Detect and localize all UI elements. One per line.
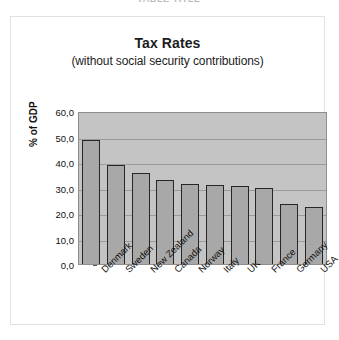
x-axis-tick-label: UK — [245, 267, 253, 275]
x-axis-tick-label: Germany — [294, 267, 302, 275]
cut-off-header-strip: TABLE TITLE — [0, 0, 338, 12]
x-axis-tick-label: France — [269, 267, 277, 275]
y-axis-tick-label: 0,0 — [34, 260, 74, 271]
x-axis-tick-labels: DenmarkSwedenNew ZealandCanadaNorwayItal… — [78, 267, 327, 337]
x-axis-tick-label: Italy — [221, 267, 229, 275]
chart-title: Tax Rates — [11, 35, 324, 51]
x-axis-tick-label: Denmark — [99, 267, 107, 275]
y-axis-tick-label: 30,0 — [34, 183, 74, 194]
chart-subtitle: (without social security contributions) — [11, 54, 324, 68]
y-axis-tick-label: 60,0 — [34, 107, 74, 118]
bar-denmark — [82, 140, 100, 264]
y-axis-tick-labels: 0,010,020,030,040,050,060,0 — [30, 112, 74, 265]
bar-series — [79, 113, 326, 264]
x-axis-tick-label: Sweden — [123, 267, 131, 275]
chart-figure-frame: Tax Rates (without social security contr… — [10, 16, 325, 325]
bar-uk — [231, 186, 249, 264]
x-axis-tick-label: Norway — [196, 267, 204, 275]
y-axis-tick-label: 10,0 — [34, 234, 74, 245]
x-axis-tick-label: New Zealand — [148, 267, 156, 275]
bar-france — [255, 188, 273, 264]
cut-off-header-text: TABLE TITLE — [0, 0, 338, 4]
x-axis-tick-label: Canada — [172, 267, 180, 275]
y-axis-tick-label: 50,0 — [34, 132, 74, 143]
y-axis-tick-label: 20,0 — [34, 209, 74, 220]
plot-area — [78, 112, 327, 265]
x-axis-tick-label: USA — [318, 267, 326, 275]
y-axis-tick-mark — [93, 265, 97, 266]
y-axis-tick-label: 40,0 — [34, 158, 74, 169]
